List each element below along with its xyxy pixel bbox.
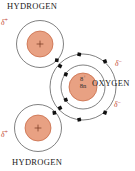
oxygen-proton-sign: + — [83, 74, 86, 79]
oxygen-proton-count-line: 8+ — [68, 75, 98, 82]
electron-outer-3 — [103, 59, 108, 64]
charge-hydrogen-bottom: δ+ — [1, 131, 8, 139]
electron-hydrogen-bottom — [52, 111, 56, 115]
charge-oxygen-bottom: δ− — [114, 101, 121, 109]
electron-outer-6 — [58, 106, 63, 111]
atom-hydrogen-bottom — [15, 105, 62, 152]
oxygen-nucleus-label: 8+ 8n — [68, 75, 98, 89]
charge-oxygen-top: δ− — [115, 60, 122, 68]
electron-outer-4 — [103, 110, 108, 115]
atom-hydrogen-top — [17, 21, 64, 68]
oxygen-neutron-count: 8n — [68, 82, 98, 89]
electron-outer-1 — [58, 64, 63, 69]
charge-hydrogen-top: δ+ — [1, 19, 8, 27]
charge-oxygen-top-sign: − — [119, 58, 122, 64]
charge-hydrogen-bottom-sign: + — [5, 129, 8, 135]
electron-hydrogen-top — [55, 58, 59, 62]
charge-oxygen-bottom-sign: − — [118, 99, 121, 105]
electron-outer-2 — [77, 52, 81, 56]
water-molecule-diagram: HYDROGEN HYDROGEN OXYGEN δ+ δ+ δ− δ− 8+ … — [0, 0, 135, 171]
label-hydrogen-bottom: HYDROGEN — [12, 158, 62, 167]
electron-outer-5 — [77, 118, 81, 122]
label-hydrogen-top: HYDROGEN — [7, 2, 57, 11]
charge-hydrogen-top-sign: + — [5, 17, 8, 23]
